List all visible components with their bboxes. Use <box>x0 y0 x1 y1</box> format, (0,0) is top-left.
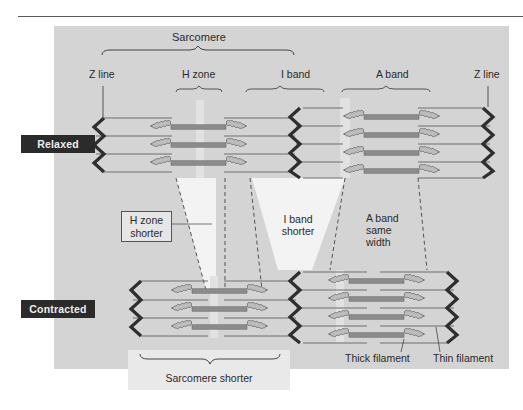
sarcomere-shorter-label: Sarcomere shorter <box>128 372 290 384</box>
z-line-left-label: Z line <box>89 68 115 80</box>
relaxed-badge: Relaxed <box>21 135 95 153</box>
i-band-shorter-line1: I band <box>278 213 318 225</box>
thick-filament-label: Thick filament <box>345 352 410 364</box>
sarcomere-diagram <box>0 0 523 410</box>
contracted-badge: Contracted <box>21 300 95 318</box>
h-zone-shorter-line2: shorter <box>126 227 167 240</box>
h-zone-label: H zone <box>182 68 215 80</box>
a-band-line3: width <box>366 236 399 248</box>
i-band-shorter-line2: shorter <box>278 225 318 237</box>
i-band-label: I band <box>281 68 310 80</box>
a-band-line1: A band <box>366 212 399 224</box>
h-zone-shorter-box: H zone shorter <box>121 211 172 242</box>
h-zone-highlight <box>176 178 216 290</box>
sarcomere-shorter-box: Sarcomere shorter <box>128 350 290 390</box>
a-band-label: A band <box>376 68 409 80</box>
sarcomere-label: Sarcomere <box>172 31 226 44</box>
thin-filament-label: Thin filament <box>433 352 493 364</box>
a-band-same-width-label: A band same width <box>366 212 399 248</box>
a-band-line2: same <box>366 224 399 236</box>
h-zone-shorter-line1: H zone <box>126 214 167 227</box>
z-line-right-label: Z line <box>474 68 500 80</box>
i-band-shorter-label: I band shorter <box>278 213 318 237</box>
